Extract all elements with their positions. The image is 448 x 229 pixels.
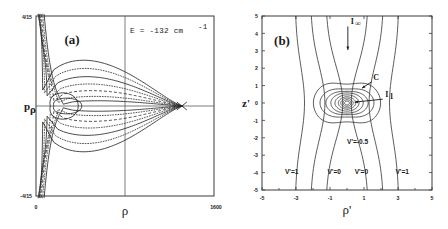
panel-b-xtick-label-5: 5 — [431, 195, 434, 201]
panel-b-label: (b) — [274, 33, 290, 48]
panel-a-contour-4-lower — [40, 106, 183, 198]
two-panel-figure: 4/15-4/1501600pρρ(a)E = -132 cm-1543210-… — [0, 0, 448, 229]
panel-b-annotation-potential-left-one-text: V'=1 — [285, 168, 299, 175]
panel-b-annotation-potential-minus-half: V'=-0.5 — [347, 138, 369, 145]
panel-a-contour-3-lower — [39, 106, 183, 198]
panel-b-ytick-label-6: -1 — [253, 118, 258, 124]
panel-b: 543210-1-2-3-4-5-5-3-1135I∞CI1V'=-0.5V'=… — [242, 13, 434, 217]
panel-b-ytick-label-9: -4 — [253, 170, 258, 176]
panel-b-ytick-label-4: 1 — [255, 83, 258, 89]
panel-a-ylabel: pρ — [24, 100, 36, 115]
panel-a-xtick-label-1: 0 — [35, 204, 38, 210]
panel-a-energy-annotation: E = -132 cm-1 — [130, 23, 208, 35]
panel-a-contour-2-lower — [39, 106, 183, 198]
panel-b-annotation-potential-left-zero-text: V'=0 — [327, 168, 341, 175]
panel-b-annotation-potential-left-zero: V'=0 — [327, 168, 341, 175]
panel-b-vertical-contour-1 — [296, 16, 305, 190]
panel-a-energy-text: E = -132 cm — [130, 27, 184, 35]
panel-b-annotation-contour-C: C — [373, 73, 379, 82]
panel-b-xtick-label-4: 3 — [397, 195, 400, 201]
panel-b-closed-contour-9 — [345, 101, 350, 105]
panel-b-annotation-potential-minus-half-text: V'=-0.5 — [347, 138, 369, 145]
panel-a-contour-5-lower — [41, 106, 183, 198]
panel-a-contour-6-lower — [43, 106, 183, 198]
panel-b-annotation-potential-right-zero-text: V'=0 — [355, 168, 369, 175]
panel-b-annotation-I-one: I1 — [385, 90, 393, 101]
panel-a-xtick-label-2: 1600 — [210, 204, 222, 210]
panel-b-ytick-label-1: 4 — [255, 31, 258, 37]
panel-b-ytick-label-10: -5 — [253, 187, 258, 193]
panel-b-arrow-I-infinity — [346, 26, 349, 49]
panel-b-ytick-label-7: -2 — [253, 135, 258, 141]
panel-a-ytick-label-1: 4/15 — [22, 14, 32, 20]
panel-b-xlabel: ρ' — [343, 202, 352, 217]
panel-b-ytick-label-3: 2 — [255, 65, 258, 71]
panel-b-ytick-label-2: 3 — [255, 48, 258, 54]
panel-b-annotation-I-infinity: I∞ — [351, 17, 361, 28]
panel-a-ylabel-subscript: ρ — [30, 103, 36, 115]
panel-b-annotation-potential-right-one: V'=1 — [395, 168, 409, 175]
figure-container: 4/15-4/1501600pρρ(a)E = -132 cm-1543210-… — [0, 0, 448, 229]
panel-a-xlabel: ρ — [122, 203, 129, 218]
panel-b-xtick-label-2: -1 — [328, 195, 333, 201]
panel-b-annotation-I-infinity-subscript: ∞ — [355, 19, 361, 28]
panel-a-energy-exponent: -1 — [198, 23, 208, 31]
panel-b-annotation-potential-left-one: V'=1 — [285, 168, 299, 175]
panel-b-annotation-I-one-text: I — [385, 90, 388, 99]
panel-b-xtick-label-1: -3 — [294, 195, 299, 201]
panel-a: 4/15-4/1501600pρρ(a)E = -132 cm-1 — [20, 14, 222, 218]
panel-a-contour-7-lower — [44, 106, 183, 198]
panel-a-ytick-label-2: -4/15 — [20, 193, 32, 199]
panel-a-contour-1-lower — [38, 106, 183, 198]
panel-b-annotation-potential-right-zero: V'=0 — [355, 168, 369, 175]
panel-b-xtick-label-0: -5 — [260, 195, 265, 201]
panel-a-label: (a) — [64, 32, 79, 47]
panel-b-annotation-potential-right-one-text: V'=1 — [395, 168, 409, 175]
panel-b-annotation-I-infinity-text: I — [351, 17, 354, 26]
panel-b-annotation-contour-C-text: C — [373, 73, 379, 82]
panel-b-closed-contour-4 — [331, 93, 363, 113]
panel-b-ylabel: z' — [242, 97, 250, 109]
panel-b-ytick-label-8: -3 — [253, 152, 258, 158]
panel-b-vertical-contour-6 — [390, 16, 399, 190]
panel-b-xtick-label-3: 1 — [363, 195, 366, 201]
panel-b-arrow-I-infinity-head — [346, 47, 349, 50]
panel-b-annotation-I-one-subscript: 1 — [389, 92, 393, 101]
panel-b-ytick-label-0: 5 — [255, 13, 258, 19]
panel-b-ytick-label-5: 0 — [255, 100, 258, 106]
